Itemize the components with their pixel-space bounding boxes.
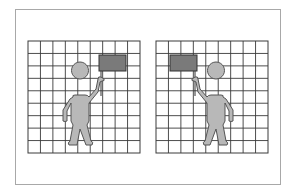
figure-canvas: [0, 0, 294, 193]
right-panel: [156, 41, 268, 153]
left-panel: [28, 41, 140, 153]
